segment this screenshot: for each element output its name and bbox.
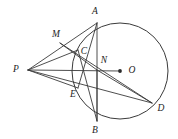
point-label-m: M — [51, 29, 61, 39]
point-label-a: A — [91, 6, 98, 16]
point-label-c: C — [81, 46, 88, 56]
geometry-canvas: AMCNOPEBD — [0, 0, 178, 139]
geometry-figure: AMCNOPEBD — [0, 0, 178, 139]
point-label-o: O — [129, 65, 136, 75]
segment-nd — [97, 70, 152, 103]
point-dot-o — [118, 69, 122, 73]
segment-pe — [28, 70, 78, 88]
point-label-n: N — [100, 55, 108, 65]
segment-po — [28, 70, 120, 71]
point-label-e: E — [69, 89, 76, 99]
point-label-d: D — [157, 103, 165, 113]
point-label-p: P — [12, 64, 19, 74]
point-label-b: B — [92, 125, 98, 135]
point-dots-layer — [118, 69, 122, 73]
